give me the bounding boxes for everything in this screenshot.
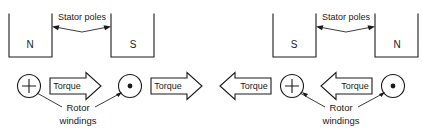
leader-line [319,27,372,32]
pole-outline [111,14,154,57]
torque-label: Torque [341,81,369,91]
rotor-windings-caption: Rotor windings [59,102,97,126]
stator-pole-n-right: N [375,14,418,57]
pole-outline [9,14,52,57]
rotor-windings-line1: Rotor [66,102,89,113]
torque-label: Torque [240,81,268,91]
torque-arrow-left-2: Torque [321,73,372,100]
leader-arrowhead-right [104,25,112,30]
dot-symbol-icon [391,84,396,89]
diagram-right: S N Stator poles Torque [220,12,418,126]
pole-outline [375,14,418,57]
rotor-conductor-plus [281,75,304,98]
leader-line [55,27,108,32]
diagram-left: N S Stator poles Torque [9,12,202,126]
rotor-conductor-dot [382,75,405,98]
pole-outline [273,14,316,57]
pole-label-s: S [291,39,298,50]
stator-poles-label: Stator poles [322,12,371,22]
figure-canvas: N S Stator poles Torque [0,0,423,128]
rotor-windings-line1: Rotor [329,102,352,113]
plus-symbol-icon [23,80,36,93]
pole-label-n: N [26,39,33,50]
plus-symbol-icon [286,80,299,93]
stator-pole-s-right: S [111,14,154,57]
leader-line-to-plus [37,93,62,107]
pole-label-s: S [130,39,137,50]
leader-line-to-dot [358,94,383,108]
leader-line-to-plus [300,93,325,107]
stator-pole-s-left: S [273,14,316,57]
stator-poles-leader: Stator poles [316,12,375,32]
stator-poles-label: Stator poles [58,12,107,22]
leader-line-to-dot [95,94,120,108]
leader-arrowhead-left [316,25,324,30]
dot-symbol-icon [128,84,133,89]
leader-arrowhead-dot [116,92,122,97]
rotor-windings-line2: windings [322,115,360,126]
pole-label-n: N [393,39,400,50]
rotor-windings-caption: Rotor windings [322,102,360,126]
torque-arrow-left-1: Torque [220,73,271,100]
leader-arrowhead-left [52,25,60,30]
stator-pole-n-left: N [9,14,52,57]
torque-label: Torque [154,81,182,91]
motor-torque-figure: N S Stator poles Torque [0,0,423,128]
stator-poles-leader: Stator poles [52,12,111,32]
rotor-windings-line2: windings [59,115,97,126]
leader-arrowhead-right [368,25,376,30]
torque-label: Torque [53,81,81,91]
leader-arrowhead-dot [379,92,385,97]
torque-arrow-right-2: Torque [151,73,202,100]
rotor-conductor-dot [119,75,142,98]
torque-arrow-right-1: Torque [50,73,101,100]
rotor-conductor-plus [18,75,41,98]
